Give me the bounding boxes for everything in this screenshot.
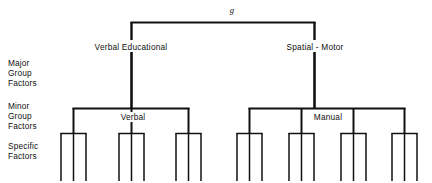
root-node-label-g: g [228,5,236,15]
node-label-verbal: Verbal [119,112,148,122]
node-label-verbal-educational: Verbal Educational [93,42,170,52]
tier-label-major-group-factors: Major Group Factors [8,58,37,89]
node-label-manual: Manual [312,112,344,122]
hierarchical-factor-diagram: g Verbal Educational Spatial - Motor Ver… [0,0,432,183]
tier-label-minor-group-factors: Minor Group Factors [8,101,37,132]
node-label-spatial-motor: Spatial - Motor [285,42,346,52]
tier-label-specific-factors: Specific Factors [8,141,38,161]
diagram-lines [0,0,432,183]
